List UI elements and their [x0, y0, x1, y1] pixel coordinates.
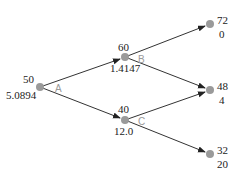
edge-label-b: B [138, 55, 145, 65]
node-uu-icon [206, 20, 214, 28]
edge-down-ud [125, 92, 205, 120]
node-ud-value: 4 [219, 95, 225, 106]
node-root-icon [36, 83, 44, 91]
node-dd-price: 32 [217, 145, 228, 156]
edge-up-uu [125, 26, 205, 57]
node-down-price: 40 [118, 104, 129, 115]
edge-root-down [40, 87, 120, 118]
node-up-value: 1.4147 [110, 63, 140, 74]
node-dd-value: 20 [217, 159, 228, 170]
edge-label-c: C [138, 117, 145, 127]
edge-down-dd [125, 120, 205, 152]
node-up-icon [121, 53, 129, 61]
node-dd-icon [206, 150, 214, 158]
node-root-price: 50 [23, 74, 34, 85]
node-ud-price: 48 [217, 81, 228, 92]
edge-label-a: A [55, 84, 62, 94]
node-root-value: 5.0894 [6, 90, 36, 101]
node-uu-value: 0 [219, 29, 225, 40]
node-uu-price: 72 [217, 15, 228, 26]
node-down-icon [121, 116, 129, 124]
node-down-value: 12.0 [114, 126, 133, 137]
node-up-price: 60 [118, 42, 129, 53]
node-ud-icon [206, 86, 214, 94]
edge-root-up [40, 59, 120, 87]
binomial-tree-diagram: 50 5.0894 A 60 1.4147 B 40 12.0 C 72 0 4… [0, 0, 239, 181]
